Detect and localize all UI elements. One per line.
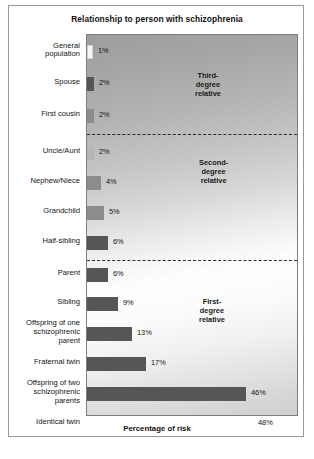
bar-value-label: 4%: [106, 177, 117, 187]
bar: [87, 297, 118, 311]
category-label: Fraternal twin: [2, 358, 80, 367]
category-label: Identical twin: [2, 418, 80, 427]
bar-value-label: 1%: [98, 46, 109, 56]
bar-value-label: 46%: [251, 388, 266, 398]
chart-title: Relationship to person with schizophreni…: [9, 14, 305, 24]
bar: [87, 268, 108, 282]
plot-area: Third- degree relativeSecond- degree rel…: [86, 34, 298, 416]
section-divider: [87, 260, 297, 261]
bar: [87, 236, 108, 250]
bar: [87, 45, 93, 59]
bar-value-label: 13%: [137, 328, 152, 338]
section-divider: [87, 134, 297, 135]
bar-value-label: 5%: [109, 207, 120, 217]
bar-value-label: 9%: [123, 298, 134, 308]
category-label: Half-sibling: [2, 237, 80, 246]
category-label: Nephew/Niece: [2, 177, 80, 186]
category-label: Parent: [2, 269, 80, 278]
bar: [87, 357, 146, 371]
bar-value-label: 2%: [99, 78, 110, 88]
category-label: Offspring of one schizophrenic parent: [2, 319, 80, 345]
bar: [87, 387, 246, 401]
bar: [87, 176, 101, 190]
bar: [87, 109, 94, 123]
bar-value-label: 2%: [99, 147, 110, 157]
category-label: First cousin: [2, 110, 80, 119]
category-label: Spouse: [2, 78, 80, 87]
bar-value-label: 2%: [99, 110, 110, 120]
chart-figure: Relationship to person with schizophreni…: [8, 5, 304, 437]
group-label-third-degree: Third- degree relative: [195, 71, 221, 99]
bar-value-label: 6%: [113, 269, 124, 279]
category-label: Sibling: [2, 298, 80, 307]
bar-value-label: 6%: [113, 237, 124, 247]
bar: [87, 146, 94, 160]
category-label: Grandchild: [2, 207, 80, 216]
category-label: Offspring of two schizophrenic parents: [2, 379, 80, 405]
category-label: General population: [2, 42, 80, 60]
bar: [87, 77, 94, 91]
category-label: Uncle/Aunt: [2, 147, 80, 156]
bar-value-label: 17%: [151, 358, 166, 368]
group-label-second-degree: Second- degree relative: [199, 158, 228, 186]
group-label-first-degree: First- degree relative: [199, 297, 225, 325]
bar: [87, 206, 104, 220]
bar: [87, 327, 132, 341]
bar-value-label: 48%: [258, 418, 273, 428]
